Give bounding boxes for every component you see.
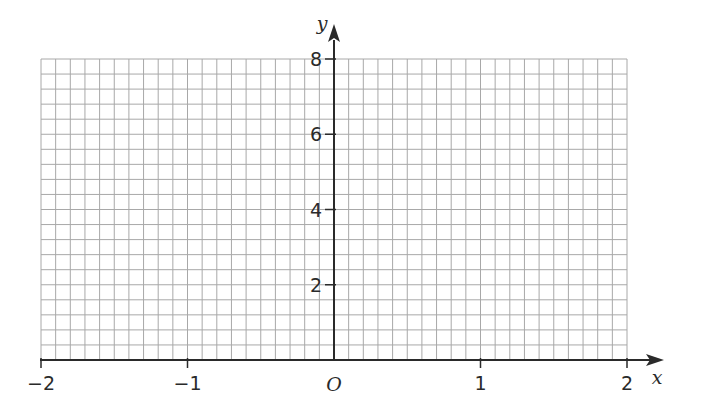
y-tick-label: 6 <box>310 123 322 145</box>
y-axis-arrow-icon <box>328 24 340 42</box>
x-axis-label: x <box>652 366 663 388</box>
tick-labels: −2−1122468Oxy <box>27 12 663 395</box>
y-axis-label: y <box>316 12 328 34</box>
x-tick-label: −2 <box>27 372 55 394</box>
x-tick-label: −1 <box>173 372 201 394</box>
y-tick-label: 2 <box>310 274 322 296</box>
origin-label: O <box>326 373 342 395</box>
y-tick-label: 8 <box>310 48 322 70</box>
x-tick-label: 1 <box>474 372 486 394</box>
y-tick-label: 4 <box>310 199 322 221</box>
x-tick-label: 2 <box>621 372 633 394</box>
coordinate-grid-chart: −2−1122468Oxy <box>0 0 711 410</box>
